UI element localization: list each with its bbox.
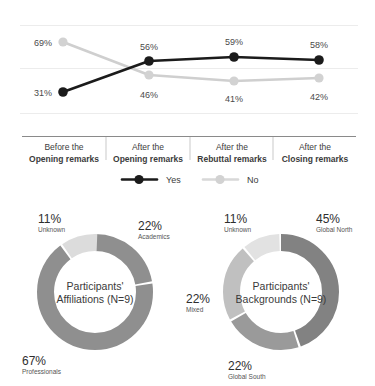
category-3-bottom: Closing remarks bbox=[282, 154, 349, 164]
donut-left-unknown-name: Unknown bbox=[38, 226, 65, 233]
donut-chart-backgrounds: Participants' Backgrounds (N=9) 11% Unkn… bbox=[186, 212, 353, 380]
donut-right-global-north-pct: 45% bbox=[316, 212, 340, 226]
category-2-bottom: Rebuttal remarks bbox=[197, 154, 267, 164]
data-point-yes-0 bbox=[58, 87, 68, 97]
data-point-yes-2 bbox=[229, 52, 239, 62]
category-2-top: After the bbox=[216, 142, 248, 152]
figure-canvas: 69% 56% 59% 58% 31% 46% 41% 42% Before t… bbox=[0, 0, 375, 386]
data-label-no-3: 42% bbox=[310, 92, 328, 102]
line-chart: 69% 56% 59% 58% 31% 46% 41% 42% bbox=[20, 26, 358, 114]
donut-right-global-south-pct: 22% bbox=[228, 359, 252, 373]
category-1-top: After the bbox=[132, 142, 164, 152]
donut-right-mixed-pct: 22% bbox=[186, 292, 210, 306]
legend-label-no: No bbox=[247, 175, 259, 185]
data-label-no-1: 46% bbox=[140, 90, 158, 100]
donut-chart-affiliations: Participants' Affiliations (N=9) 11% Unk… bbox=[22, 212, 171, 375]
donut-left-unknown-pct: 11% bbox=[38, 212, 61, 226]
category-1-bottom: Opening remarks bbox=[113, 154, 183, 164]
donut-right-title-line1: Participants' bbox=[253, 280, 310, 292]
data-label-yes-2: 59% bbox=[225, 37, 243, 47]
line-chart-legend: Yes No bbox=[122, 175, 259, 185]
legend-swatch-no-dot bbox=[215, 175, 224, 184]
donut-left-title-line2: Affiliations (N=9) bbox=[56, 293, 133, 305]
donut-right-global-south-name: Global South bbox=[228, 373, 266, 380]
donut-right-global-north-name: Global North bbox=[316, 226, 353, 233]
legend-swatch-yes-dot bbox=[134, 175, 143, 184]
data-label-yes-3: 58% bbox=[310, 40, 328, 50]
donut-right-title-line2: Backgrounds (N=9) bbox=[236, 293, 327, 305]
data-point-yes-3 bbox=[314, 55, 324, 65]
donut-left-academics-pct: 22% bbox=[138, 219, 162, 233]
donut-left-professionals-name: Professionals bbox=[22, 368, 62, 375]
category-0-top: Before the bbox=[44, 142, 83, 152]
figure-panel: 69% 56% 59% 58% 31% 46% 41% 42% Before t… bbox=[0, 0, 375, 386]
donut-right-mixed-name: Mixed bbox=[186, 306, 204, 313]
series-line-yes bbox=[63, 57, 319, 92]
x-axis-categories: Before the Opening remarks After the Ope… bbox=[22, 137, 356, 165]
data-label-no-0: 69% bbox=[34, 38, 52, 48]
donut-right-unknown-name: Unknown bbox=[224, 226, 251, 233]
donut-right-unknown-pct: 11% bbox=[224, 212, 247, 226]
data-label-no-2: 41% bbox=[225, 94, 243, 104]
category-0-bottom: Opening remarks bbox=[29, 154, 99, 164]
category-3-top: After the bbox=[299, 142, 331, 152]
donut-left-title-line1: Participants' bbox=[67, 280, 124, 292]
donut-left-professionals-pct: 67% bbox=[22, 354, 46, 368]
data-point-no-0 bbox=[58, 37, 67, 46]
data-point-yes-1 bbox=[144, 56, 154, 66]
legend-label-yes: Yes bbox=[166, 175, 181, 185]
data-point-no-1 bbox=[144, 70, 153, 79]
data-label-yes-1: 56% bbox=[140, 42, 158, 52]
data-label-yes-0: 31% bbox=[34, 88, 52, 98]
data-point-no-2 bbox=[229, 76, 238, 85]
donut-left-academics-name: Academics bbox=[138, 233, 171, 240]
series-line-no bbox=[63, 42, 319, 81]
data-point-no-3 bbox=[314, 73, 323, 82]
